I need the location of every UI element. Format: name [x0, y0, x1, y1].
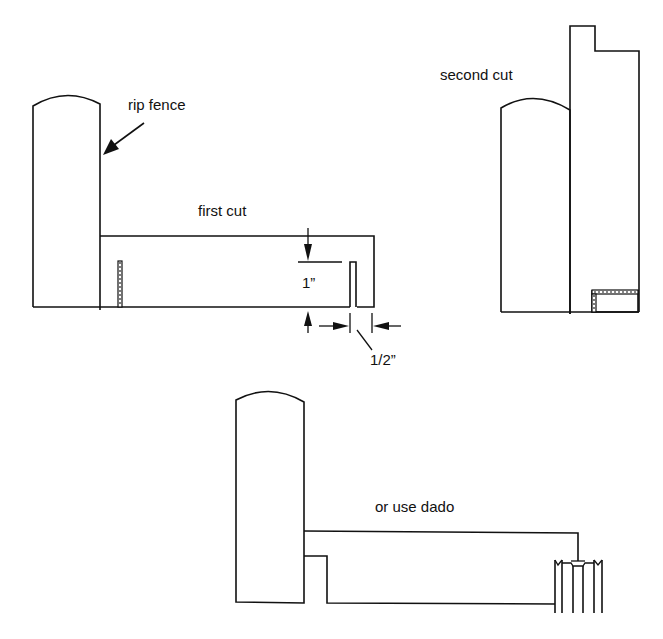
- dim-depth-label: 1”: [302, 274, 315, 291]
- workpiece-dado-lower: [304, 556, 555, 604]
- tenon-cutting-diagram: rip fence first cut 1” 1/2”: [0, 0, 663, 639]
- panel-first-cut: rip fence first cut 1” 1/2”: [33, 95, 401, 368]
- rip-fence-shape-3: [236, 391, 304, 603]
- panel-dado: or use dado: [236, 391, 602, 613]
- dim-offset-left-arrow-icon: [333, 322, 349, 330]
- first-cut-label: first cut: [198, 202, 247, 219]
- workpiece-first-cut: [100, 236, 374, 307]
- dado-blade-stack-icon: [555, 560, 602, 613]
- kerf-slot: [350, 262, 356, 307]
- dim-offset-leader: [357, 330, 372, 350]
- dim-depth-bottom-arrow-icon: [304, 311, 312, 326]
- workpiece-dado: [304, 531, 578, 561]
- dim-offset-right-arrow-icon: [373, 322, 389, 330]
- dim-offset-label: 1/2”: [370, 351, 396, 368]
- dado-label: or use dado: [375, 498, 454, 515]
- rip-fence-shape: [33, 95, 100, 310]
- dim-depth-top-arrow-icon: [304, 244, 312, 261]
- rip-fence-arrow-icon: [103, 139, 119, 155]
- rip-fence-shape-2: [501, 98, 570, 314]
- workpiece-second-cut: [570, 26, 639, 314]
- second-cut-label: second cut: [440, 66, 513, 83]
- rip-fence-arrow-shaft: [114, 123, 144, 145]
- panel-second-cut: second cut: [440, 26, 639, 314]
- rip-fence-label: rip fence: [128, 96, 186, 113]
